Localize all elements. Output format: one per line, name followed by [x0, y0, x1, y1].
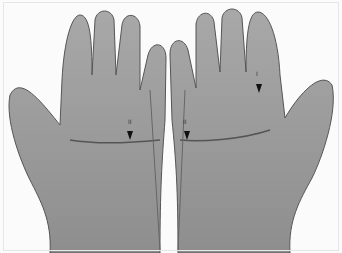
arrow-down-icon [256, 84, 262, 93]
annotation-label-2: II [128, 118, 132, 125]
annotation-label-1: I [256, 70, 258, 77]
arrow-down-icon [127, 131, 133, 140]
annotation-label-3: II [183, 118, 187, 125]
image-frame [3, 2, 339, 251]
arrow-down-icon [184, 131, 190, 140]
